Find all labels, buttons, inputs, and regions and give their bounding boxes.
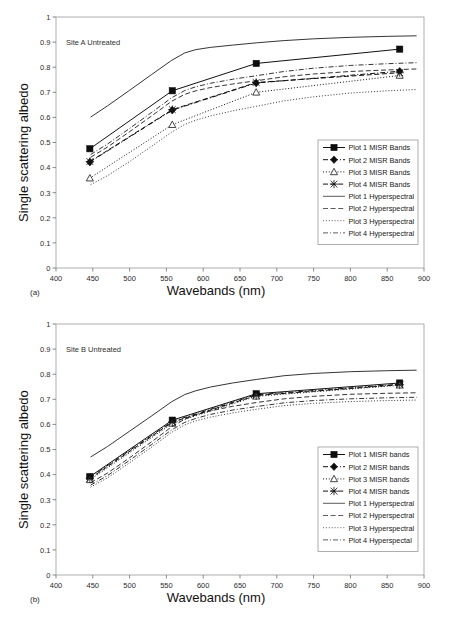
legend-label: Plot 2 Hyperspectral: [349, 511, 415, 520]
x-tick-label: 800: [344, 581, 357, 590]
marker-filled-square: [331, 451, 337, 457]
x-tick-label: 500: [123, 274, 136, 283]
chart-b-annotation: Site B Untreated: [66, 345, 121, 354]
y-tick-label: 1: [46, 320, 50, 329]
x-tick-label: 900: [418, 581, 431, 590]
y-tick-label: 0.2: [40, 521, 50, 530]
marker-cross-star: [252, 391, 260, 399]
y-tick-label: 0.7: [40, 88, 50, 97]
legend-label: Plot 4 MISR bands: [349, 487, 410, 496]
y-tick-label: 0.6: [40, 113, 50, 122]
x-tick-label: 400: [50, 274, 63, 283]
y-tick-label: 0.2: [40, 214, 50, 223]
figure-page: 40045050055060065070075080085090000.10.2…: [0, 0, 462, 617]
marker-open-triangle: [253, 89, 260, 95]
y-tick-label: 0.9: [40, 345, 50, 354]
chart-b-x-axis-title: Wavebands (nm): [36, 590, 396, 605]
legend-label: Plot 2 MISR bands: [349, 463, 410, 472]
legend-label: Plot 1 MISR bands: [349, 450, 410, 459]
legend[interactable]: Plot 1 MISR BandsPlot 2 MISR BandsPlot 3…: [318, 140, 418, 245]
marker-filled-square: [253, 60, 259, 66]
legend-label: Plot 3 Hyperspectral: [349, 217, 415, 226]
x-tick-label: 450: [87, 274, 100, 283]
x-tick-label: 600: [197, 581, 210, 590]
legend-label: Plot 4 MISR Bands: [349, 180, 411, 189]
y-tick-label: 0.4: [40, 163, 50, 172]
y-tick-label: 0.3: [40, 496, 50, 505]
y-tick-label: 0.5: [40, 445, 50, 454]
chart-panel-a: 40045050055060065070075080085090000.10.2…: [0, 0, 462, 310]
y-tick-label: 0.4: [40, 470, 50, 479]
x-tick-label: 850: [381, 274, 394, 283]
x-tick-label: 400: [50, 581, 63, 590]
legend-label: Plot 2 MISR Bands: [349, 156, 411, 165]
legend-label: Plot 1 MISR Bands: [349, 143, 411, 152]
marker-filled-square: [397, 46, 403, 52]
chart-b-panel-label: (b): [30, 595, 40, 604]
y-tick-label: 0.8: [40, 63, 50, 72]
legend-label: Plot 1 Hyperspectral: [349, 499, 415, 508]
x-tick-label: 750: [307, 274, 320, 283]
x-tick-label: 800: [344, 274, 357, 283]
chart-b-y-axis-title: Single scattering albedo: [16, 390, 31, 529]
marker-filled-square: [169, 88, 175, 94]
series-1: [87, 46, 403, 152]
y-tick-label: 0.1: [40, 546, 50, 555]
legend-label: Plot 3 MISR bands: [349, 475, 410, 484]
legend-label: Plot 3 Hyperspectral: [349, 524, 415, 533]
marker-cross-star: [168, 106, 176, 114]
marker-cross-star: [330, 487, 338, 495]
marker-cross-star: [86, 157, 94, 165]
y-tick-label: 0: [46, 571, 50, 580]
chart-a-x-axis-title: Wavebands (nm): [36, 283, 396, 298]
x-tick-label: 750: [307, 581, 320, 590]
y-tick-label: 0.8: [40, 370, 50, 379]
legend-label: Plot 4 Hyperspectal: [349, 536, 413, 545]
x-tick-label: 600: [197, 274, 210, 283]
series-path: [91, 370, 417, 457]
y-tick-label: 0: [46, 264, 50, 273]
x-tick-label: 900: [418, 274, 431, 283]
y-tick-label: 0.9: [40, 38, 50, 47]
chart-a-annotation: Site A Untreated: [66, 38, 120, 47]
y-tick-label: 0.7: [40, 395, 50, 404]
y-tick-label: 0.5: [40, 138, 50, 147]
legend[interactable]: Plot 1 MISR bandsPlot 2 MISR bandsPlot 3…: [318, 447, 418, 552]
series-path: [90, 49, 400, 149]
x-tick-label: 450: [87, 581, 100, 590]
y-tick-label: 0.3: [40, 189, 50, 198]
y-tick-label: 1: [46, 13, 50, 22]
chart-panel-b: 40045050055060065070075080085090000.10.2…: [0, 307, 462, 617]
legend-label: Plot 3 MISR Bands: [349, 168, 411, 177]
legend-label: Plot 4 Hyperspectral: [349, 229, 415, 238]
marker-cross-star: [330, 180, 338, 188]
chart-a-panel-label: (a): [30, 288, 40, 297]
x-tick-label: 650: [234, 581, 247, 590]
marker-cross-star: [396, 381, 404, 389]
y-tick-label: 0.6: [40, 420, 50, 429]
x-tick-label: 850: [381, 581, 394, 590]
x-tick-label: 650: [234, 274, 247, 283]
series-5: [91, 370, 417, 457]
x-tick-label: 700: [271, 581, 284, 590]
marker-open-triangle: [169, 121, 176, 127]
legend-label: Plot 1 Hyperspectral: [349, 192, 415, 201]
marker-cross-star: [252, 78, 260, 86]
y-tick-label: 0.1: [40, 239, 50, 248]
x-tick-label: 550: [160, 274, 173, 283]
x-tick-label: 500: [123, 581, 136, 590]
x-tick-label: 700: [271, 274, 284, 283]
marker-filled-square: [331, 144, 337, 150]
legend-label: Plot 2 Hyperspectral: [349, 204, 415, 213]
chart-a-y-axis-title: Single scattering albedo: [16, 83, 31, 222]
x-tick-label: 550: [160, 581, 173, 590]
marker-open-triangle: [86, 175, 93, 181]
marker-filled-square: [87, 146, 93, 152]
